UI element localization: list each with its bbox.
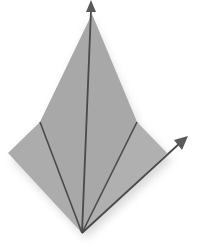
- origami-figure: [0, 0, 207, 247]
- right-arrow-icon: [174, 136, 188, 150]
- origami-diagram: [0, 0, 207, 247]
- up-arrow-icon: [86, 0, 96, 12]
